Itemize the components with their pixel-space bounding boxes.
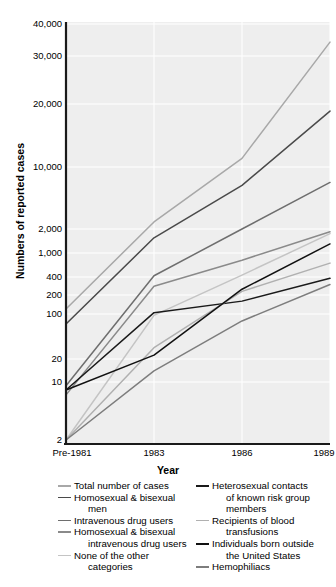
x-axis-tick: 1983 <box>114 448 194 458</box>
legend-label: Homosexual & bisexualintravenous drug us… <box>74 526 190 549</box>
legend-label-line: of known risk group <box>212 492 336 504</box>
y-axis-tick: 2,000 <box>38 224 62 234</box>
x-axis-tick: 1989 <box>284 448 336 458</box>
legend-label-line: transfusions <box>212 526 336 538</box>
y-axis-tick: 40,000 <box>33 19 62 29</box>
legend-item[interactable]: Heterosexual contactsof known risk group… <box>196 480 336 515</box>
y-axis-tick: 100 <box>46 309 62 319</box>
x-axis-title: Year <box>0 464 336 476</box>
legend-label-line: Homosexual & bisexual <box>74 492 175 503</box>
legend-column-left: Total number of casesHomosexual & bisexu… <box>58 480 190 573</box>
legend-label-line: men <box>74 503 190 515</box>
legend-label: None of the othercategories <box>74 550 190 573</box>
legend-line-swatch-icon <box>58 515 71 527</box>
plot-background <box>66 22 330 444</box>
legend-item[interactable]: Homosexual & bisexualintravenous drug us… <box>58 526 190 549</box>
legend-label-line: Homosexual & bisexual <box>74 526 175 537</box>
legend-item[interactable]: Hemophiliacs <box>196 561 336 573</box>
legend-line-swatch-icon <box>196 538 209 550</box>
legend-label-line: intravenous drug users <box>74 538 190 550</box>
chart-legend: Total number of casesHomosexual & bisexu… <box>0 480 336 587</box>
legend-item[interactable]: Intravenous drug users <box>58 515 190 527</box>
legend-line-swatch-icon <box>196 480 209 492</box>
legend-label-line: Hemophiliacs <box>212 561 270 572</box>
legend-item[interactable]: Individuals born outsidethe United State… <box>196 538 336 561</box>
legend-label-line: members <box>212 503 336 515</box>
legend-label: Hemophiliacs <box>212 561 336 573</box>
x-axis-tick: 1986 <box>202 448 282 458</box>
legend-label-line: Heterosexual contacts <box>212 480 308 491</box>
y-axis-tick-labels: 40,00030,00020,00010,0002,0001,000400200… <box>0 0 62 470</box>
legend-item[interactable]: Total number of cases <box>58 480 190 492</box>
legend-label-line: Intravenous drug users <box>74 515 173 526</box>
legend-line-swatch-icon <box>58 526 71 538</box>
legend-label-line: categories <box>74 561 190 573</box>
legend-label: Heterosexual contactsof known risk group… <box>212 480 336 515</box>
legend-line-swatch-icon <box>58 492 71 504</box>
y-axis-tick: 30,000 <box>33 51 62 61</box>
legend-line-swatch-icon <box>58 480 71 492</box>
legend-label-line: the United States <box>212 550 336 562</box>
y-axis-tick: 400 <box>46 272 62 282</box>
x-axis-tick: Pre-1981 <box>32 448 112 458</box>
legend-label: Intravenous drug users <box>74 515 190 527</box>
y-axis-tick: 20 <box>51 354 62 364</box>
legend-item[interactable]: None of the othercategories <box>58 550 190 573</box>
legend-label: Individuals born outsidethe United State… <box>212 538 336 561</box>
legend-label: Homosexual & bisexualmen <box>74 492 190 515</box>
y-axis-tick: 10,000 <box>33 162 62 172</box>
legend-line-swatch-icon <box>196 561 209 573</box>
y-axis-tick: 10 <box>51 377 62 387</box>
legend-label: Recipients of bloodtransfusions <box>212 515 336 538</box>
y-axis-tick: 20,000 <box>33 99 62 109</box>
legend-line-swatch-icon <box>196 515 209 527</box>
legend-line-swatch-icon <box>58 550 71 562</box>
y-axis-tick: 200 <box>46 290 62 300</box>
chart-container: Numbers of reported cases 40,00030,00020… <box>0 0 336 470</box>
legend-item[interactable]: Recipients of bloodtransfusions <box>196 515 336 538</box>
legend-label-line: None of the other <box>74 550 149 561</box>
legend-label: Total number of cases <box>74 480 190 492</box>
legend-item[interactable]: Homosexual & bisexualmen <box>58 492 190 515</box>
y-axis-tick: 2 <box>57 435 62 445</box>
legend-label-line: Total number of cases <box>74 480 169 491</box>
legend-label-line: Recipients of blood <box>212 515 294 526</box>
legend-column-right: Heterosexual contactsof known risk group… <box>196 480 336 573</box>
legend-label-line: Individuals born outside <box>212 538 314 549</box>
y-axis-tick: 1,000 <box>38 248 62 258</box>
